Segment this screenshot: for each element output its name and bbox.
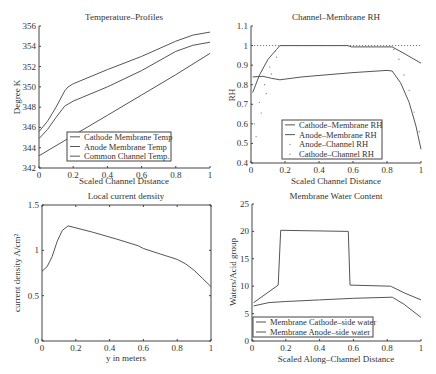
y-tick-label: 1.5 — [28, 200, 40, 210]
series-point — [250, 149, 251, 150]
panel-channel-membrane-rh: Channel–Membrane RH 00.20.40.60.810.40.5… — [227, 12, 423, 186]
y-tick-label: 0.5 — [28, 291, 40, 301]
series-point — [259, 102, 260, 103]
x-tick-label: 0.8 — [381, 165, 393, 175]
y-axis-label: current density A/cm² — [12, 234, 22, 312]
x-tick-label: 1 — [209, 343, 214, 353]
x-tick-label: 0.8 — [172, 343, 184, 353]
legend-marker — [289, 144, 290, 145]
legend-entry: Anode Membrane Temp — [84, 142, 167, 152]
legend: Cathode Membrane TempAnode Membrane Temp… — [67, 132, 172, 161]
x-axis-label: Scaled Along–Channel Distance — [278, 354, 394, 364]
legend-entry: Membrane Anode–side water — [270, 327, 370, 337]
y-tick-label: 1.1 — [237, 21, 248, 31]
x-tick-label: 0.4 — [313, 165, 325, 175]
x-tick-label: 0 — [249, 165, 254, 175]
series-line — [39, 32, 210, 131]
x-tick-label: 1 — [419, 165, 424, 175]
series-line — [253, 46, 421, 93]
x-axis-label: Scaled Channel Distance — [291, 176, 381, 186]
series-point — [274, 51, 275, 52]
legend-entry: Anode–Membrane RH — [299, 130, 377, 140]
x-tick-label: 0 — [40, 343, 45, 353]
y-tick-label: 10 — [240, 281, 250, 291]
legend-entry: Anode–Channel RH — [299, 139, 368, 149]
legend-marker — [289, 153, 290, 154]
axes: 00.20.40.60.8100.511.5 — [28, 200, 214, 353]
legend-entry: Cathode–Membrane RH — [299, 120, 382, 130]
y-tick-label: 0.4 — [237, 158, 249, 168]
series-point — [269, 66, 270, 67]
panel-temperature-profiles: Temperature–Profiles 00.20.40.60.8134234… — [12, 12, 212, 186]
series-point — [271, 73, 272, 74]
y-tick-label: 0.6 — [237, 119, 249, 129]
series-point — [266, 93, 267, 94]
chart-title: Membrane Water Content — [289, 191, 383, 201]
plot-area — [42, 226, 211, 287]
y-tick-label: 20 — [240, 226, 250, 236]
y-axis-label: Waters/Acid group — [228, 238, 238, 307]
series-point — [254, 123, 255, 124]
y-tick-label: 342 — [23, 163, 37, 173]
chart-title: Local current density — [88, 191, 165, 201]
x-tick-label: 1 — [419, 343, 424, 353]
x-tick-label: 0.6 — [138, 343, 150, 353]
y-tick-label: 0 — [245, 336, 250, 346]
x-axis-label: y in meters — [106, 353, 146, 363]
x-tick-label: 0.6 — [348, 343, 360, 353]
y-tick-label: 5 — [245, 309, 250, 319]
y-tick-label: 15 — [240, 254, 250, 264]
y-tick-label: 344 — [23, 143, 37, 153]
legend: Cathode–Membrane RHAnode–Membrane RHAnod… — [282, 120, 382, 159]
legend-entry: Common Channel Temp. — [84, 151, 169, 161]
legend-entry: Cathode Membrane Temp — [84, 132, 172, 142]
series-point — [261, 112, 262, 113]
series-point — [414, 111, 415, 112]
y-axis-label: RH — [227, 88, 237, 101]
x-tick-label: 0.6 — [347, 165, 359, 175]
series-point — [398, 59, 399, 60]
series-point — [393, 49, 394, 50]
series-point — [276, 57, 277, 58]
y-tick-label: 0.7 — [237, 99, 249, 109]
y-tick-label: 354 — [23, 41, 37, 51]
x-tick-label: 0.8 — [170, 170, 182, 180]
series-point — [264, 84, 265, 85]
chart-title: Channel–Membrane RH — [292, 12, 381, 22]
y-axis-label: Degree K — [12, 79, 22, 114]
y-tick-label: 346 — [23, 122, 37, 132]
y-tick-label: 0 — [35, 336, 40, 346]
y-tick-label: 1 — [35, 245, 40, 255]
x-tick-label: 0 — [250, 343, 255, 353]
y-tick-label: 352 — [23, 62, 37, 72]
x-tick-label: 0.8 — [382, 343, 394, 353]
series-line — [254, 297, 421, 317]
series-point — [408, 90, 409, 91]
x-tick-label: 0.4 — [314, 343, 326, 353]
series-line — [42, 226, 211, 287]
x-tick-label: 0.2 — [280, 343, 291, 353]
y-tick-label: 350 — [23, 82, 37, 92]
y-tick-label: 0.5 — [237, 138, 249, 148]
series-line — [254, 230, 421, 302]
legend-entry: Cathode–Channel RH — [299, 149, 374, 159]
series-point — [419, 131, 420, 132]
panel-membrane-water-content: Membrane Water Content 00.20.40.60.81051… — [228, 191, 423, 364]
x-tick-label: 0.2 — [68, 170, 79, 180]
x-tick-label: 0.2 — [70, 343, 81, 353]
x-tick-label: 1 — [208, 170, 213, 180]
chart-title: Temperature–Profiles — [85, 12, 163, 22]
legend-entry: Membrane Cathode–side water — [270, 317, 376, 327]
y-tick-label: 348 — [23, 102, 37, 112]
figure-canvas: Temperature–Profiles 00.20.40.60.8134234… — [0, 0, 436, 374]
x-tick-label: 0 — [37, 170, 42, 180]
series-point — [255, 136, 256, 137]
y-tick-label: 25 — [240, 199, 250, 209]
plot-area — [254, 230, 421, 317]
panel-local-current-density: Local current density 00.20.40.60.8100.5… — [12, 191, 213, 363]
y-tick-label: 0.8 — [237, 80, 249, 90]
y-tick-label: 356 — [23, 21, 37, 31]
x-tick-label: 0.2 — [279, 165, 290, 175]
y-tick-label: 1 — [244, 41, 249, 51]
x-axis-label: Scaled Channel Distance — [79, 176, 169, 186]
